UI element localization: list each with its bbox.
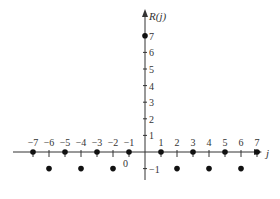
origin-label: 0 (123, 158, 128, 169)
y-tick-label: 4 (149, 81, 154, 92)
x-tick-label: −7 (28, 137, 39, 148)
y-tick-label: 1 (149, 130, 154, 141)
y-tick-label: 7 (149, 31, 154, 42)
data-point (46, 166, 52, 172)
data-point (30, 149, 36, 155)
x-tick-label: −6 (44, 137, 55, 148)
data-point (222, 149, 228, 155)
y-axis-arrow-icon (142, 9, 148, 17)
data-point (238, 166, 244, 172)
data-point (62, 149, 68, 155)
x-tick-label: −1 (124, 137, 135, 148)
data-point (126, 149, 132, 155)
x-tick-label: 1 (159, 137, 164, 148)
x-tick-label: −5 (60, 137, 71, 148)
y-axis-label: R(j) (148, 10, 166, 23)
x-tick-label: 6 (239, 137, 244, 148)
y-tick-label: 5 (149, 64, 154, 75)
x-tick-label: −2 (108, 137, 119, 148)
data-point (190, 149, 196, 155)
y-tick-label: −1 (149, 164, 160, 175)
y-tick-label: 3 (149, 97, 154, 108)
stem-plot: −7−6−5−4−3−2−112345671234567−1 j R(j) 0 (0, 0, 280, 199)
data-point (142, 33, 148, 39)
data-point (174, 166, 180, 172)
data-point (78, 166, 84, 172)
x-tick-label: −4 (76, 137, 87, 148)
y-tick-label: 6 (149, 47, 154, 58)
data-point (94, 149, 100, 155)
data-point (254, 149, 260, 155)
x-tick-label: −3 (92, 137, 103, 148)
x-tick-label: 5 (223, 137, 228, 148)
x-axis-label: j (264, 147, 269, 159)
x-tick-label: 7 (255, 137, 260, 148)
x-tick-label: 4 (207, 137, 212, 148)
data-point (110, 166, 116, 172)
x-tick-label: 3 (191, 137, 196, 148)
data-point (158, 149, 164, 155)
x-tick-label: 2 (175, 137, 180, 148)
y-tick-label: 2 (149, 114, 154, 125)
data-point (206, 166, 212, 172)
